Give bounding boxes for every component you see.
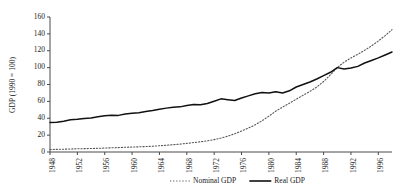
y-axis-title: GDP (1990 = 100) [8, 57, 17, 113]
x-tick-label: 1948 [48, 158, 57, 173]
legend-label: Real GDP [274, 176, 305, 185]
gdp-line-chart: GDP (1990 = 100) 020406080100120140160 1… [0, 0, 410, 196]
x-tick-label: 1968 [185, 158, 194, 173]
x-tick-label: 1964 [157, 158, 166, 173]
y-tick-label: 140 [34, 29, 46, 38]
series-line-real-gdp [50, 52, 392, 122]
x-tick-label: 1984 [294, 158, 303, 173]
y-tick-label: 80 [38, 79, 46, 88]
x-tick-label: 1988 [321, 158, 330, 173]
x-tick-label: 1980 [267, 158, 276, 173]
y-tick-label: 20 [38, 130, 46, 139]
y-axis-ticks: 020406080100120140160 [34, 12, 50, 156]
x-axis-ticks: 1948195219561960196419681972197619801984… [48, 152, 385, 173]
y-tick-label: 120 [34, 45, 46, 54]
x-tick-label: 1976 [239, 158, 248, 173]
x-tick-label: 1992 [349, 158, 358, 173]
legend-label: Nominal GDP [193, 176, 236, 185]
series-line-nominal-gdp [50, 30, 392, 150]
x-tick-label: 1956 [102, 158, 111, 173]
x-tick-label: 1996 [376, 158, 385, 173]
y-tick-label: 40 [38, 113, 46, 122]
series-layer [50, 30, 392, 150]
y-tick-label: 100 [34, 62, 46, 71]
x-tick-label: 1960 [130, 158, 139, 173]
x-tick-label: 1972 [212, 158, 221, 173]
y-tick-label: 160 [34, 12, 46, 21]
y-axis-title-group: GDP (1990 = 100) [8, 57, 17, 113]
x-tick-label: 1952 [75, 158, 84, 173]
chart-legend: Nominal GDPReal GDP [170, 176, 305, 185]
y-tick-label: 0 [41, 147, 45, 156]
y-tick-label: 60 [38, 96, 46, 105]
chart-canvas: GDP (1990 = 100) 020406080100120140160 1… [0, 0, 410, 196]
